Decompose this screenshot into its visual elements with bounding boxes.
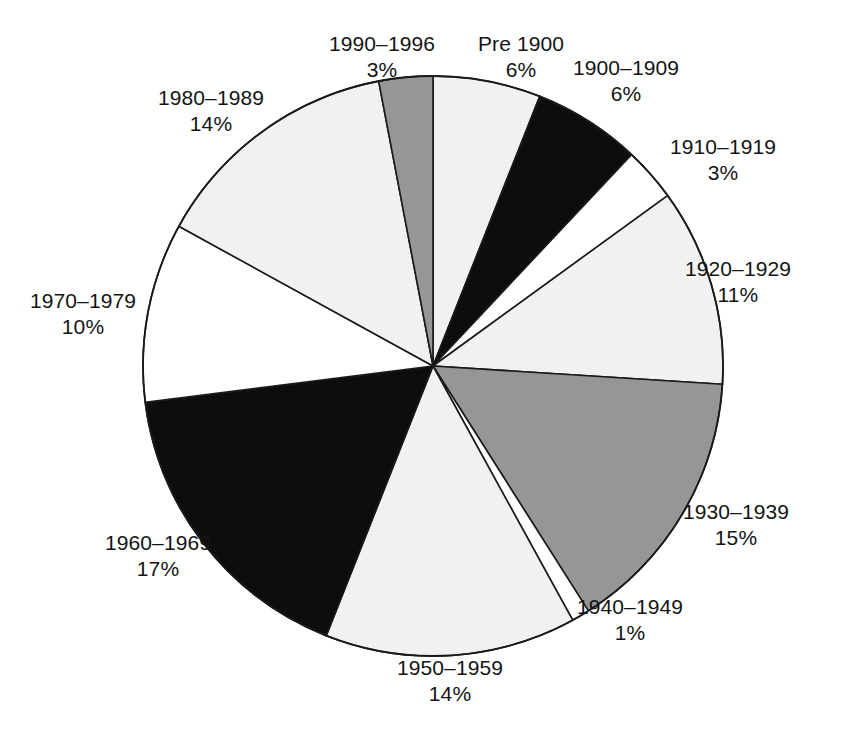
slice-label-name: 1930–1939 — [683, 499, 789, 525]
slice-label-name: 1990–1996 — [329, 31, 435, 57]
slice-label-name: 1900–1909 — [573, 55, 679, 81]
slice-label-1910-1919: 1910–1919 3% — [670, 134, 776, 186]
slice-label-pre-1900: Pre 1900 6% — [478, 31, 564, 83]
slice-label-value: 6% — [573, 81, 679, 107]
slice-label-1950-1959: 1950–1959 14% — [397, 655, 503, 707]
slice-label-name: 1960–1969 — [105, 530, 211, 556]
slice-label-value: 11% — [685, 282, 791, 308]
slice-label-1920-1929: 1920–1929 11% — [685, 256, 791, 308]
slice-label-name: Pre 1900 — [478, 31, 564, 57]
slice-label-value: 15% — [683, 525, 789, 551]
slice-label-value: 14% — [158, 111, 264, 137]
slice-label-value: 6% — [478, 57, 564, 83]
slice-label-value: 3% — [329, 57, 435, 83]
slice-label-1900-1909: 1900–1909 6% — [573, 55, 679, 107]
slice-label-name: 1970–1979 — [30, 288, 136, 314]
slice-label-value: 3% — [670, 160, 776, 186]
slice-label-1940-1949: 1940–1949 1% — [577, 594, 683, 646]
slice-label-value: 1% — [577, 620, 683, 646]
slice-label-name: 1940–1949 — [577, 594, 683, 620]
pie-chart-figure: Pre 1900 6% 1900–1909 6% 1910–1919 3% 19… — [0, 0, 853, 734]
slice-label-name: 1910–1919 — [670, 134, 776, 160]
slice-label-value: 14% — [397, 681, 503, 707]
slice-label-name: 1920–1929 — [685, 256, 791, 282]
slice-label-value: 10% — [30, 314, 136, 340]
slice-label-name: 1950–1959 — [397, 655, 503, 681]
slice-label-1980-1989: 1980–1989 14% — [158, 85, 264, 137]
slice-label-1960-1969: 1960–1969 17% — [105, 530, 211, 582]
pie-chart-canvas — [0, 0, 853, 734]
slice-label-1990-1996: 1990–1996 3% — [329, 31, 435, 83]
slice-label-value: 17% — [105, 556, 211, 582]
slice-label-name: 1980–1989 — [158, 85, 264, 111]
slice-label-1930-1939: 1930–1939 15% — [683, 499, 789, 551]
slice-label-1970-1979: 1970–1979 10% — [30, 288, 136, 340]
